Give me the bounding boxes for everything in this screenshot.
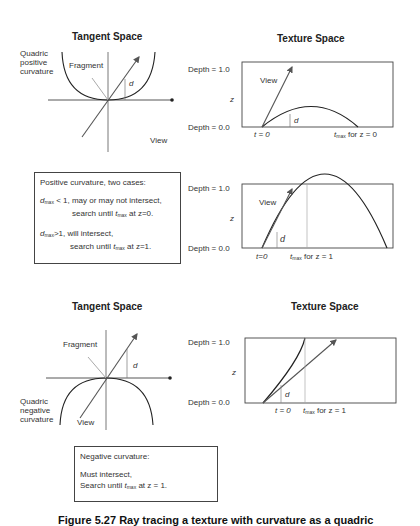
quadric-neg-line2: negative xyxy=(20,407,50,415)
z-label-mid: z xyxy=(230,215,234,223)
case1-line2: search until tmax at z=0. xyxy=(40,208,180,221)
tangent-space-title-bottom: Tangent Space xyxy=(72,301,142,312)
t0-label-bottom: t = 0 xyxy=(275,407,291,415)
case2-line2: search until tmax at z=1. xyxy=(40,241,180,254)
tmax-label: tmax for z = 0 xyxy=(334,131,377,139)
negative-curvature-note: Negative curvature: Must intersect, Sear… xyxy=(74,446,218,502)
t0-label: t = 0 xyxy=(254,131,270,139)
note-heading: Positive curvature, two cases: xyxy=(40,177,180,188)
neg-line2: Search until tmax at z = 1. xyxy=(80,480,217,493)
t0-label-mid: t=0 xyxy=(256,253,267,261)
texture-space-title-bottom: Texture Space xyxy=(291,301,359,312)
tangent-space-title-top: Tangent Space xyxy=(72,31,142,42)
depth-top-label-mid: Depth = 1.0 xyxy=(188,185,230,193)
neg-heading: Negative curvature: xyxy=(80,451,217,462)
d-label-bottom-left: d xyxy=(133,362,137,370)
d-label-mid: d xyxy=(280,235,285,244)
depth-top-label-bottom: Depth = 1.0 xyxy=(188,339,230,347)
depth-bottom-label-mid: Depth = 0.0 xyxy=(188,245,230,253)
texture-space-negative xyxy=(245,338,396,403)
depth-bottom-label-bottom: Depth = 0.0 xyxy=(188,399,230,407)
depth-top-label: Depth = 1.0 xyxy=(188,66,230,74)
tmax-label-mid: tmax for z = 1 xyxy=(290,253,333,261)
case1-line1: dmax < 1, may or may not intersect, xyxy=(40,195,180,208)
neg-line1: Must intersect, xyxy=(80,469,217,480)
positive-curvature-note: Positive curvature, two cases: dmax < 1,… xyxy=(34,172,181,264)
view-label-bottom-left: View xyxy=(77,419,94,427)
d-label-bottom-right: d xyxy=(285,391,289,399)
d-label-top-left: d xyxy=(129,80,133,88)
d-label: d xyxy=(294,117,298,125)
quadric-neg-line1: Quadric xyxy=(20,398,48,406)
quadric-label-line1: Quadric xyxy=(20,50,48,58)
fragment-label-bottom: Fragment xyxy=(63,341,97,349)
view-label: View xyxy=(260,77,277,85)
texture-space-positive-z0 xyxy=(242,62,393,127)
quadric-label-line2: positive xyxy=(20,59,47,67)
z-label-bottom: z xyxy=(232,369,236,377)
texture-space-positive-z1 xyxy=(242,174,393,248)
quadric-label-line3: curvature xyxy=(20,68,53,76)
figure-caption: Figure 5.27 Ray tracing a texture with c… xyxy=(58,514,373,526)
tmax-label-bottom: tmax for z = 1 xyxy=(303,407,346,415)
view-label-top-left: View xyxy=(150,137,167,145)
view-label-mid: View xyxy=(259,199,276,207)
quadric-neg-line3: curvature xyxy=(20,416,53,424)
depth-bottom-label: Depth = 0.0 xyxy=(188,124,230,132)
texture-space-title-top: Texture Space xyxy=(277,33,345,44)
case2-line1: dmax>1, will intersect, xyxy=(40,228,180,241)
z-label: z xyxy=(230,96,234,104)
fragment-label-top: Fragment xyxy=(69,62,103,70)
